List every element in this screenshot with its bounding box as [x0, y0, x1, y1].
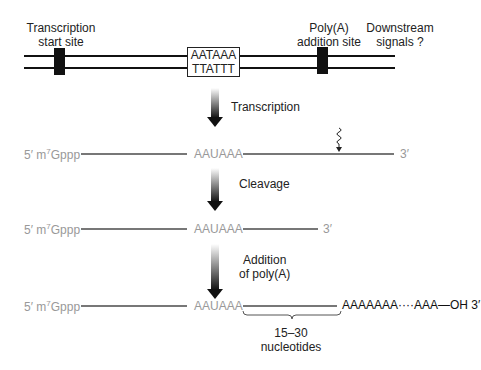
rna-segment: [243, 228, 318, 230]
rna-segment: [81, 228, 187, 230]
three-prime-end: 3′: [400, 147, 409, 161]
polya-addition-site-label: Poly(A) addition site: [289, 21, 369, 49]
five-prime-text: 5′ m: [24, 148, 46, 162]
brace-icon: [242, 310, 342, 320]
aauaaa-signal: AAUAAA: [194, 147, 243, 161]
box-line: AATAAA: [188, 48, 239, 62]
label-line: Addition: [239, 253, 290, 267]
label-line: start site: [26, 35, 96, 49]
label-line: signals ?: [360, 35, 440, 49]
rna-segment: [243, 153, 394, 155]
cap-text: Gppp: [51, 300, 80, 314]
transcription-start-site-label: Transcription start site: [26, 21, 96, 49]
label-line: Downstream: [360, 21, 440, 35]
cap-text: Gppp: [51, 223, 80, 237]
rna-segment: [81, 305, 187, 307]
arrow-head-icon: [207, 289, 223, 299]
cleavage-site-squiggle-icon: [333, 127, 345, 155]
five-prime-cap: 5′ m7Gppp: [24, 222, 80, 237]
label-line: Poly(A): [289, 21, 369, 35]
cleavage-arrow: [211, 168, 219, 202]
five-prime-text: 5′ m: [24, 223, 46, 237]
aataaa-signal-box: AATAAA TTATTT: [187, 47, 240, 77]
three-prime-end: 3′: [323, 222, 332, 236]
brace-label: 15–30 nucleotides: [256, 326, 326, 354]
five-prime-cap: 5′ m7Gppp: [24, 299, 80, 314]
step-transcription-label: Transcription: [231, 100, 300, 114]
polyadenylation-arrow: [211, 244, 219, 290]
polya-site-block: [317, 47, 328, 74]
rna-segment: [81, 153, 187, 155]
label-line: addition site: [289, 35, 369, 49]
rna-segment: [243, 305, 337, 307]
box-line: TTATTT: [188, 62, 239, 76]
downstream-signals-label: Downstream signals ?: [360, 21, 440, 49]
arrow-head-icon: [207, 201, 223, 211]
step-cleavage-label: Cleavage: [239, 177, 290, 191]
label-line: 15–30: [256, 326, 326, 340]
label-line: of poly(A): [239, 267, 290, 281]
cap-text: Gppp: [51, 148, 80, 162]
arrow-head-icon: [207, 117, 223, 127]
aauaaa-signal: AAUAAA: [194, 299, 243, 313]
label-line: Transcription: [26, 21, 96, 35]
aauaaa-signal: AAUAAA: [194, 222, 243, 236]
transcription-start-block: [54, 48, 65, 75]
polya-tail: AAAAAAA····AAA—OH 3′: [342, 298, 480, 312]
step-addition-polya-label: Addition of poly(A): [239, 253, 290, 281]
five-prime-cap: 5′ m7Gppp: [24, 147, 80, 162]
label-line: nucleotides: [256, 340, 326, 354]
transcription-arrow: [211, 88, 219, 118]
five-prime-text: 5′ m: [24, 300, 46, 314]
